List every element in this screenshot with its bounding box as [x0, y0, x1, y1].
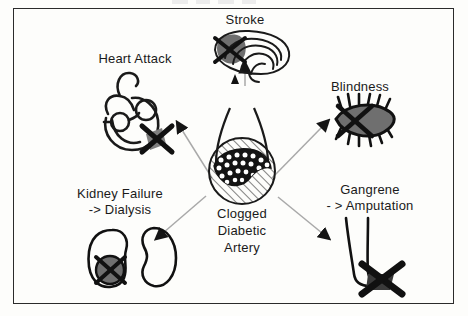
kidney-failure-label: Kidney Failure -> Dialysis — [50, 186, 190, 218]
right-kidney-outline — [142, 228, 176, 286]
eye-illustration — [328, 94, 404, 148]
diabetic-complications-figure: Clogged Diabetic Artery Heart Attack — [0, 0, 468, 316]
stroke-label-text: Stroke — [195, 12, 295, 28]
brain-illustration — [205, 28, 301, 84]
kidney-failure-label-line1: Kidney Failure — [50, 186, 190, 202]
artery-label-line1: Clogged — [192, 205, 292, 222]
brain-pointer-arrowhead — [231, 74, 239, 84]
kidneys-illustration — [82, 226, 182, 292]
blindness-label-text: Blindness — [305, 79, 415, 95]
gangrene-label-line2: - > Amputation — [300, 198, 440, 214]
kidney-failure-label-line2: -> Dialysis — [50, 202, 190, 218]
blindness-label: Blindness — [305, 79, 415, 95]
heart-blockage-marker — [142, 126, 172, 152]
gangrene-label: Gangrene - > Amputation — [300, 182, 440, 214]
artery-label: Clogged Diabetic Artery — [192, 205, 292, 256]
heart-attack-label-text: Heart Attack — [60, 51, 210, 67]
leg-foot-illustration — [334, 216, 422, 298]
stroke-label: Stroke — [195, 12, 295, 28]
gangrene-label-line1: Gangrene — [300, 182, 440, 198]
artery-label-line3: Artery — [192, 239, 292, 256]
artery-illustration — [192, 108, 292, 208]
heart-illustration — [84, 66, 184, 158]
heart-attack-label: Heart Attack — [60, 51, 210, 67]
artery-label-line2: Diabetic — [192, 222, 292, 239]
